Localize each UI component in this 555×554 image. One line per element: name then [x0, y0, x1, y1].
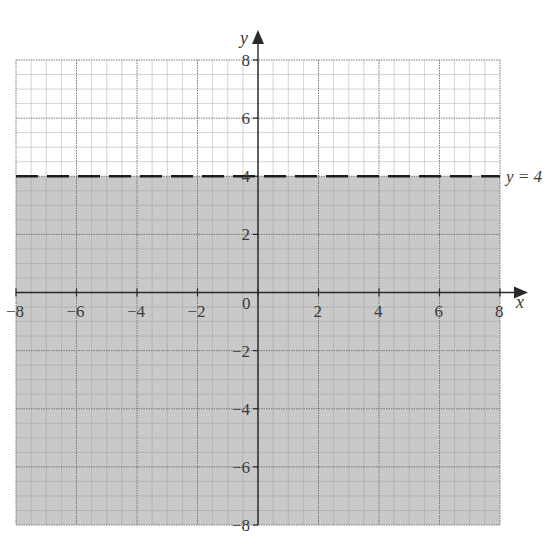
x-axis-label: x — [515, 292, 524, 312]
x-tick-label: −2 — [188, 302, 206, 321]
x-tick-label: 4 — [374, 302, 383, 321]
y-tick-label: −6 — [232, 458, 250, 477]
x-tick-label: 8 — [495, 302, 504, 321]
y-tick-label: −2 — [232, 342, 250, 361]
inequality-graph: −8−6−4−202468−8−6−4−22468 x y y = 4 — [0, 0, 555, 554]
x-tick-label: −6 — [67, 302, 85, 321]
y-tick-label: 2 — [242, 225, 251, 244]
y-tick-label: 8 — [242, 51, 251, 70]
y-tick-label: −8 — [232, 516, 250, 535]
y-tick-label: 4 — [242, 167, 251, 186]
line-equation-label: y = 4 — [504, 167, 543, 186]
x-tick-label: −8 — [6, 302, 24, 321]
y-axis-label: y — [238, 28, 248, 48]
y-axis-arrow-icon — [252, 30, 264, 44]
x-tick-label: −4 — [127, 302, 146, 321]
x-tick-label: 0 — [242, 294, 251, 313]
y-tick-label: −4 — [232, 400, 251, 419]
y-tick-label: 6 — [242, 109, 251, 128]
x-tick-label: 2 — [314, 302, 323, 321]
x-tick-label: 6 — [435, 302, 444, 321]
